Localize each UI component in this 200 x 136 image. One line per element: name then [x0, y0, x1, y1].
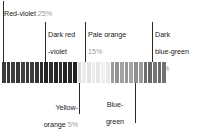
leader-line-dark-red-violet: [45, 22, 46, 62]
callout-pale-orange-label: Pale orange: [88, 30, 126, 39]
leader-line-red-violet: [3, 1, 4, 62]
leader-line-dark-blue-green: [152, 22, 153, 62]
callout-dark-blue-green-label-line2: blue-green: [155, 47, 189, 56]
callout-pale-orange: Pale orange 15%: [88, 22, 144, 56]
bar-stripe: [162, 62, 166, 83]
callout-dark-red-violet-label-line1: Dark red: [48, 30, 75, 39]
callout-blue-green-label-line1: Blue-: [107, 100, 124, 109]
callout-blue-green-percent: 20%: [108, 134, 122, 136]
color-proportion-chart: Red-violet 25% Dark red -violet 20% Pale…: [0, 0, 200, 136]
callout-yellow-orange: Yellow- orange 5%: [28, 95, 78, 129]
callout-red-violet-percent: 25%: [38, 9, 52, 18]
callout-yellow-orange-percent: 5%: [68, 120, 78, 129]
leader-line-blue-green: [135, 83, 136, 123]
callout-dark-blue-green-label-line1: Dark: [155, 30, 170, 39]
callout-blue-green: Blue- green 20%: [96, 92, 134, 136]
callout-yellow-orange-label-line1: Yellow-: [55, 103, 78, 112]
stacked-color-bar: [2, 62, 166, 83]
callout-blue-green-label-line2: green: [106, 117, 124, 126]
callout-red-violet: Red-violet 25%: [4, 1, 94, 18]
callout-dark-red-violet-label-line2: -violet: [48, 47, 67, 56]
callout-yellow-orange-label-line2: orange: [44, 120, 66, 129]
callout-pale-orange-percent: 15%: [88, 47, 102, 56]
leader-line-yellow-orange: [79, 83, 80, 114]
leader-line-pale-orange: [85, 22, 86, 62]
callout-red-violet-label: Red-violet: [4, 9, 36, 18]
